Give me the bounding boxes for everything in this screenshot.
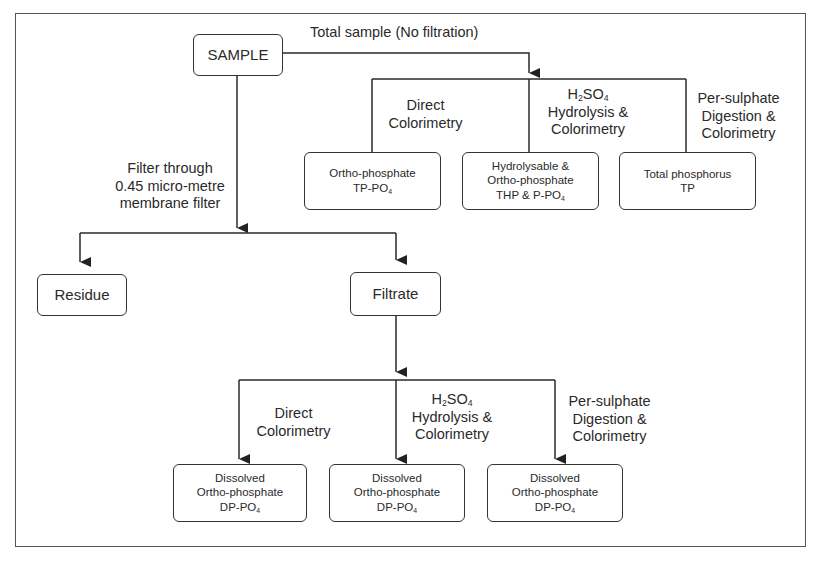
ortho-total-line1: Ortho-phosphate (329, 166, 415, 180)
residue-label: Residue (54, 286, 109, 305)
hydrolysable-phosphate-node: Hydrolysable & Ortho-phosphate THP & P-P… (462, 152, 599, 210)
dissolved-node-3: Dissolved Ortho-phosphate DP-PO4 (487, 464, 623, 522)
dissolved3-line1: Dissolved (530, 471, 580, 485)
direct-colorimetry-label-bottom: Direct Colorimetry (246, 405, 341, 440)
sample-label: SAMPLE (208, 46, 269, 65)
dissolved2-line1: Dissolved (372, 471, 422, 485)
filter-label: Filter through 0.45 micro-metre membrane… (106, 160, 234, 213)
ortho-total-line2: TP-PO4 (353, 181, 392, 196)
total-p-line1: Total phosphorus (644, 167, 732, 181)
persulphate-label-top: Per-sulphate Digestion & Colorimetry (691, 90, 786, 143)
dissolved1-line1: Dissolved (215, 471, 265, 485)
dissolved1-line3: DP-PO4 (220, 500, 260, 515)
total-sample-label: Total sample (No filtration) (310, 24, 478, 42)
ortho-phosphate-total-node: Ortho-phosphate TP-PO4 (304, 152, 441, 210)
dissolved-node-2: Dissolved Ortho-phosphate DP-PO4 (329, 464, 465, 522)
total-p-line2: TP (680, 181, 695, 195)
total-phosphorus-node: Total phosphorus TP (619, 152, 756, 210)
h2so4-label-bottom: H2SO4 Hydrolysis & Colorimetry (402, 391, 502, 444)
hydrolysable-line1: Hydrolysable & (492, 159, 569, 173)
residue-node: Residue (37, 274, 127, 316)
dissolved3-line2: Ortho-phosphate (512, 485, 598, 499)
filtrate-label: Filtrate (373, 285, 419, 304)
dissolved1-line2: Ortho-phosphate (197, 485, 283, 499)
sample-node: SAMPLE (193, 34, 283, 76)
dissolved3-line3: DP-PO4 (535, 500, 575, 515)
h2so4-label-top: H2SO4 Hydrolysis & Colorimetry (538, 86, 638, 139)
persulphate-label-bottom: Per-sulphate Digestion & Colorimetry (562, 393, 657, 446)
filtrate-node: Filtrate (350, 272, 441, 316)
dissolved-node-1: Dissolved Ortho-phosphate DP-PO4 (173, 464, 307, 522)
hydrolysable-line3: THP & P-PO4 (496, 188, 565, 203)
direct-colorimetry-label-top: Direct Colorimetry (378, 97, 473, 132)
dissolved2-line2: Ortho-phosphate (354, 485, 440, 499)
dissolved2-line3: DP-PO4 (377, 500, 417, 515)
hydrolysable-line2: Ortho-phosphate (487, 173, 573, 187)
